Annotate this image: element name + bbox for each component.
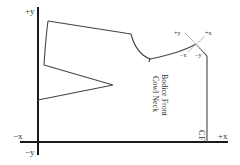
side-seam <box>44 21 48 65</box>
piece-title: Bodice Front <box>160 74 169 117</box>
axis-label-minus-x: −x <box>13 131 23 141</box>
bust-dart <box>38 65 113 100</box>
local-label-plus-y: +y <box>174 30 180 36</box>
shoulder-line <box>48 21 131 34</box>
local-label-plus-x: +x <box>205 30 211 36</box>
bodice-pattern-diagram: +y −y −x +x +y +x −x −y Bodice Front Cow… <box>0 0 240 165</box>
piece-subtitle: Cowl Neck <box>151 76 160 112</box>
axis-label-plus-y: +y <box>25 6 35 16</box>
cf-label: CF <box>197 130 206 142</box>
local-label-minus-x: −x <box>180 52 186 58</box>
local-label-minus-y: −y <box>195 52 201 58</box>
axis-label-plus-x: +x <box>218 131 228 141</box>
axis-label-minus-y: −y <box>25 147 35 157</box>
